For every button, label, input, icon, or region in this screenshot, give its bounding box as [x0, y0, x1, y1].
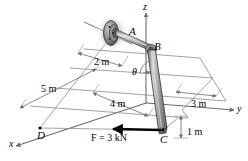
mechanics-figure: z y x A B C D θ 2 m 5 m 4 m 3 m 1 m F = … — [0, 0, 248, 161]
point-label-D: D — [37, 130, 45, 141]
point-label-B: B — [154, 41, 161, 52]
dimension-label-3m: 3 m — [191, 99, 206, 109]
dimension-label-4m: 4 m — [110, 99, 125, 109]
dimension-label-5m: 5 m — [41, 84, 56, 94]
point-label-A: A — [129, 26, 136, 37]
angle-label-theta: θ — [132, 67, 137, 77]
force-arrow-F — [113, 129, 161, 130]
force-label-F: F = 3 kN — [91, 133, 127, 143]
axis-label-y: y — [237, 104, 241, 114]
dimension-label-1m: 1 m — [187, 127, 202, 137]
point-marker-C — [162, 129, 165, 132]
dimension-label-2m: 2 m — [94, 57, 109, 67]
axis-label-z: z — [143, 2, 147, 12]
angle-theta-arc — [140, 61, 150, 74]
construction-lines — [30, 34, 226, 130]
boom-BC — [148, 50, 168, 134]
point-label-C: C — [160, 134, 167, 145]
axis-label-x: x — [9, 139, 13, 149]
dimension-line-3m — [176, 84, 222, 96]
